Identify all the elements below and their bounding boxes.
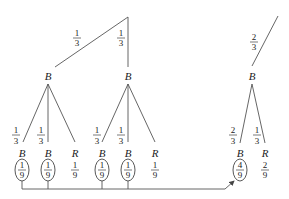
edge-top-left	[55, 17, 128, 67]
top-right-prob-label: 2 3	[250, 32, 258, 52]
svg-text:B: B	[99, 147, 106, 159]
right-edge1-label: 2 3	[229, 125, 237, 146]
svg-text:3: 3	[39, 136, 44, 146]
svg-text:B: B	[19, 147, 26, 159]
leaf-left-2: B 1 9	[41, 147, 55, 181]
svg-text:9: 9	[263, 170, 268, 180]
svg-text:1: 1	[39, 125, 44, 135]
node-left-b: B	[45, 70, 52, 82]
svg-text:9: 9	[73, 170, 78, 180]
arrow-icon	[225, 181, 234, 189]
right-edge2-label: 1 3	[253, 125, 261, 146]
svg-text:2: 2	[252, 32, 257, 42]
svg-text:1: 1	[126, 160, 131, 170]
svg-text:R: R	[71, 147, 79, 159]
leaf-middle-1: B 1 9	[95, 147, 109, 181]
svg-text:9: 9	[100, 170, 105, 180]
svg-text:R: R	[151, 147, 159, 159]
svg-text:3: 3	[75, 38, 80, 48]
svg-text:1: 1	[46, 160, 51, 170]
svg-text:9: 9	[46, 170, 51, 180]
svg-text:9: 9	[238, 170, 243, 180]
middle-edge1-label: 1 3	[93, 125, 101, 146]
svg-text:3: 3	[119, 136, 124, 146]
svg-text:1: 1	[95, 125, 100, 135]
svg-text:1: 1	[119, 28, 124, 38]
left-edge2-label: 1 3	[37, 125, 45, 146]
svg-text:1: 1	[119, 125, 124, 135]
svg-text:3: 3	[14, 136, 19, 146]
svg-text:1: 1	[20, 160, 25, 170]
sum-connector	[22, 181, 234, 189]
svg-text:B: B	[45, 147, 52, 159]
leaf-middle-2: B 1 9	[121, 147, 135, 181]
svg-text:1: 1	[255, 125, 260, 135]
leaf-right-2: R 2 9	[261, 147, 269, 180]
svg-text:B: B	[125, 147, 132, 159]
svg-text:3: 3	[119, 38, 124, 48]
svg-text:3: 3	[252, 42, 257, 52]
svg-text:3: 3	[231, 136, 236, 146]
left-edge1-label: 1 3	[12, 125, 20, 146]
edge-middle-3	[128, 84, 155, 142]
node-right-b: B	[249, 70, 256, 82]
svg-text:1: 1	[153, 160, 158, 170]
svg-text:B: B	[237, 147, 244, 159]
svg-text:1: 1	[100, 160, 105, 170]
leaf-right-1: B 4 9	[233, 147, 247, 181]
node-middle-b: B	[125, 70, 132, 82]
svg-text:1: 1	[75, 28, 80, 38]
probability-tree-diagram: 1 3 1 3 2 3 B B B 1 3 1 3 1 3 1	[0, 0, 289, 199]
leaf-middle-3: R 1 9	[151, 147, 159, 180]
edge-left-3	[48, 84, 75, 142]
svg-text:3: 3	[95, 136, 100, 146]
top-left-prob-label: 1 3	[73, 28, 81, 48]
svg-text:R: R	[261, 147, 269, 159]
svg-text:1: 1	[14, 125, 19, 135]
top-middle-prob-label: 1 3	[117, 28, 125, 48]
svg-text:4: 4	[238, 160, 243, 170]
edge-left-1	[23, 84, 48, 142]
middle-edge2-label: 1 3	[117, 125, 125, 146]
svg-text:9: 9	[126, 170, 131, 180]
svg-text:9: 9	[153, 170, 158, 180]
svg-text:9: 9	[20, 170, 25, 180]
svg-text:1: 1	[73, 160, 78, 170]
svg-text:3: 3	[255, 136, 260, 146]
svg-text:2: 2	[263, 160, 268, 170]
svg-text:2: 2	[231, 125, 236, 135]
leaf-left-1: B 1 9	[15, 147, 29, 181]
edge-middle-1	[102, 84, 128, 142]
leaf-left-3: R 1 9	[71, 147, 79, 180]
edge-right-1	[240, 84, 252, 143]
